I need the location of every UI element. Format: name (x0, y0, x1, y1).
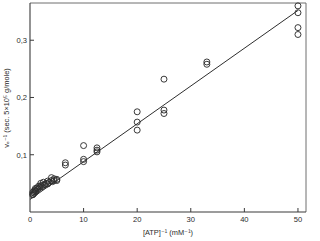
regression-line (30, 10, 298, 199)
x-tick-label: 20 (133, 215, 141, 224)
x-tick-label: 50 (294, 215, 302, 224)
scatter-plot: 01020304050 0,10,20,3 [ATP]⁻¹ (mM⁻¹) vₑ⁻… (0, 0, 320, 241)
figure-container: 01020304050 0,10,20,3 [ATP]⁻¹ (mM⁻¹) vₑ⁻… (0, 0, 320, 241)
y-axis-label: vₑ⁻¹ (sec. 5×10⁵ g/mole) (2, 68, 11, 147)
data-point (295, 25, 301, 31)
x-tick-label: 0 (28, 215, 32, 224)
y-tick-label: 0,1 (16, 151, 27, 160)
data-point (295, 3, 301, 9)
data-point (295, 31, 301, 37)
data-point (81, 143, 87, 149)
y-tick-label: 0,3 (16, 36, 27, 45)
regression-line-group (30, 10, 298, 199)
x-tick-label: 10 (79, 215, 87, 224)
y-tick-label: 0,2 (16, 93, 27, 102)
x-axis-label: [ATP]⁻¹ (mM⁻¹) (143, 228, 193, 237)
x-tick-label: 30 (187, 215, 195, 224)
data-point (161, 76, 167, 82)
data-point (134, 109, 140, 115)
data-point (134, 127, 140, 133)
x-tick-label: 40 (240, 215, 248, 224)
data-point-group (30, 3, 301, 198)
y-tick-group: 0,10,20,3 (16, 36, 34, 160)
x-tick-group: 01020304050 (28, 208, 302, 224)
